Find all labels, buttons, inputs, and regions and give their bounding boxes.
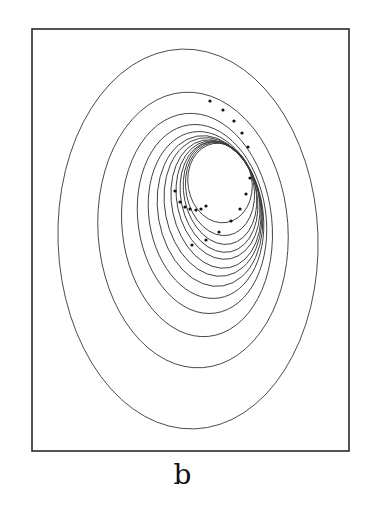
data-point <box>246 145 249 148</box>
panel-label: b <box>0 458 365 492</box>
data-point <box>232 119 235 122</box>
data-point <box>190 243 193 246</box>
contour-ellipse-1 <box>51 45 324 434</box>
data-point <box>208 99 211 102</box>
data-point <box>238 207 241 210</box>
data-point <box>244 192 247 195</box>
data-point <box>183 205 186 208</box>
contour-ellipse-3 <box>111 106 284 344</box>
data-point <box>194 208 197 211</box>
data-point <box>199 207 202 210</box>
contour-ellipse-7 <box>153 129 274 285</box>
contour-ellipses <box>51 45 324 434</box>
contour-diagram <box>0 0 365 512</box>
data-point <box>248 176 251 179</box>
contour-ellipse-10 <box>170 134 268 259</box>
data-points <box>173 99 251 246</box>
data-point <box>204 238 207 241</box>
data-point <box>217 230 220 233</box>
data-point <box>173 189 176 192</box>
data-point <box>229 219 232 222</box>
contour-ellipse-2 <box>89 86 298 375</box>
data-point <box>188 207 191 210</box>
data-point <box>204 204 207 207</box>
data-point <box>178 200 181 203</box>
data-point <box>240 131 243 134</box>
data-point <box>221 108 224 111</box>
